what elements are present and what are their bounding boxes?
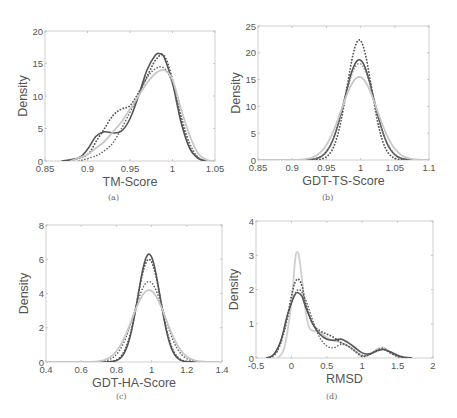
y-tick-label: 15 <box>32 58 43 69</box>
x-tick-label: 1.2 <box>180 364 193 375</box>
y-tick-label: 6 <box>39 254 44 265</box>
x-tick-label: 0.95 <box>121 163 140 174</box>
series-dotted-dark <box>46 259 222 362</box>
y-tick-label: 2 <box>39 322 44 333</box>
y-tick-label: 8 <box>39 220 44 231</box>
chart-panel-c: 0.40.60.811.21.402468GDT-HA-ScoreDensity <box>17 220 229 391</box>
y-tick-label: 0 <box>249 353 254 364</box>
x-tick-label: 0.5 <box>320 360 333 371</box>
series-solid-light <box>258 77 429 160</box>
y-tick-label: 10 <box>245 101 256 112</box>
series-solid-dark <box>258 60 429 160</box>
x-tick-label: 1 <box>149 364 154 375</box>
caption-a: (a) <box>108 193 119 202</box>
caption-d: (d) <box>326 392 337 401</box>
y-axis-label: Density <box>229 71 243 113</box>
x-tick-label: 0.95 <box>317 162 336 173</box>
series-dotted-dark <box>258 40 429 160</box>
x-tick-label: 2 <box>430 360 435 371</box>
x-tick-label: 1.1 <box>422 162 435 173</box>
y-axis-label: Density <box>16 74 30 116</box>
x-axis-label: RMSD <box>326 372 363 386</box>
figure-canvas: 0.850.90.9511.0505101520TM-ScoreDensity0… <box>0 0 457 418</box>
x-tick-label: 1 <box>170 163 175 174</box>
y-tick-label: 20 <box>32 26 43 37</box>
y-tick-label: 3 <box>249 250 254 261</box>
x-axis-label: GDT-TS-Score <box>302 174 385 188</box>
x-tick-label: 0 <box>289 360 294 371</box>
y-tick-label: 0 <box>38 156 43 167</box>
y-tick-label: 20 <box>245 47 256 58</box>
chart-panel-d: -0.500.511.5201234RMSDDensity <box>227 216 436 387</box>
axes-box <box>46 225 222 362</box>
x-axis-label: TM-Score <box>103 175 158 189</box>
series-solid-dark <box>46 254 222 362</box>
x-tick-label: 0.9 <box>81 163 94 174</box>
caption-c: (c) <box>116 392 127 401</box>
y-tick-label: 4 <box>39 288 44 299</box>
y-axis-label: Density <box>227 268 241 310</box>
y-tick-label: 0 <box>39 357 44 368</box>
x-tick-label: 1.05 <box>206 163 225 174</box>
y-tick-label: 5 <box>38 123 43 134</box>
x-tick-label: 0.8 <box>110 364 123 375</box>
x-tick-label: 1.5 <box>391 360 404 371</box>
series-solid-light <box>46 290 222 362</box>
x-axis-label: GDT-HA-Score <box>92 376 176 390</box>
x-tick-label: 1.4 <box>215 364 228 375</box>
y-tick-label: 2 <box>249 284 254 295</box>
axes-box <box>258 26 429 160</box>
x-tick-label: 1 <box>360 360 365 371</box>
y-tick-label: 10 <box>32 91 43 102</box>
y-tick-label: 1 <box>249 318 254 329</box>
series-solid-dark <box>62 53 207 161</box>
axes-box <box>45 31 215 161</box>
caption-b: (b) <box>322 193 333 202</box>
chart-panel-b: 0.850.90.9511.051.10510152025GDT-TS-Scor… <box>229 21 436 189</box>
x-tick-label: 0.6 <box>75 364 88 375</box>
x-tick-label: 0.9 <box>286 162 299 173</box>
y-tick-label: 5 <box>251 128 256 139</box>
y-tick-label: 0 <box>251 155 256 166</box>
x-tick-label: 1 <box>358 162 363 173</box>
y-axis-label: Density <box>17 272 31 314</box>
y-tick-label: 15 <box>245 74 256 85</box>
y-tick-label: 4 <box>249 216 254 227</box>
chart-panel-a: 0.850.90.9511.0505101520TM-ScoreDensity <box>16 26 224 190</box>
y-tick-label: 25 <box>245 21 256 32</box>
x-tick-label: 1.05 <box>386 162 405 173</box>
